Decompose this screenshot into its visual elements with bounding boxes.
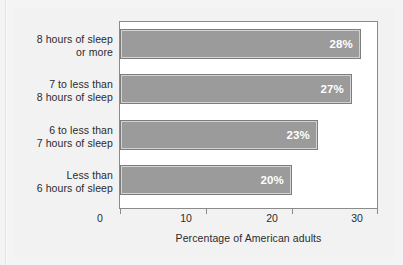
figure-container: 8 hours of sleep or more 7 to less than …	[0, 0, 403, 265]
category-label-2: 6 to less than 7 hours of sleep	[0, 124, 113, 149]
x-tick-mark-1	[206, 209, 207, 214]
bar-value-label-2: 23%	[286, 129, 310, 141]
bar-1: 27%	[120, 74, 352, 104]
bar-2: 23%	[120, 120, 318, 150]
x-tick-mark-2	[292, 209, 293, 214]
x-tick-label-1: 10	[166, 212, 206, 224]
category-label-0: 8 hours of sleep or more	[0, 33, 113, 58]
x-tick-label-0: 0	[80, 212, 120, 224]
x-tick-label-2: 20	[252, 212, 292, 224]
x-tick-label-3: 30	[337, 212, 377, 224]
category-label-1: 7 to less than 8 hours of sleep	[0, 78, 113, 103]
bar-value-label-0: 28%	[329, 38, 353, 50]
x-axis-title: Percentage of American adults	[119, 232, 378, 244]
category-label-3: Less than 6 hours of sleep	[0, 169, 113, 194]
bar-value-label-3: 20%	[260, 174, 284, 186]
bar-0: 28%	[120, 29, 361, 59]
x-tick-mark-3	[377, 209, 378, 214]
bar-3: 20%	[120, 165, 292, 195]
bar-value-label-1: 27%	[320, 83, 344, 95]
x-tick-mark-0	[120, 209, 121, 214]
